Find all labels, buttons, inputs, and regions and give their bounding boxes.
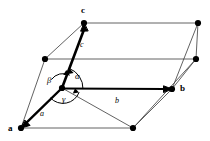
vertex-abc-corner [195,20,201,26]
vector-a-line [27,88,62,122]
vertex-ac-corner [42,56,48,62]
angle-label-gamma: γ [62,95,65,104]
edge-ab-to-origin [62,88,133,128]
vertex-bc-corner [193,56,199,62]
vertex-origin [59,85,65,91]
angle-label-beta: β [47,76,51,85]
vector-label-b: b [115,97,119,105]
vector-label-a: a [40,110,44,118]
vertex-ab-corner [130,125,136,131]
vertex-c-corner [81,20,87,26]
vector-label-c: c [80,41,84,49]
unit-cell-figure: c b a c b a α β γ [0,0,210,141]
vertex-a-corner [18,125,24,131]
vector-b-line [62,89,165,90]
axis-label-c: c [81,6,85,15]
vertex-b-corner [169,86,175,92]
edge-abc-to-b [172,23,198,89]
axis-label-a: a [8,124,13,133]
axis-label-b: b [180,84,185,93]
edge-ab-to-bc [133,59,196,128]
edge-ac-to-c [45,23,84,59]
angle-label-alpha: α [75,72,79,81]
unit-cell-drawing [0,0,210,141]
